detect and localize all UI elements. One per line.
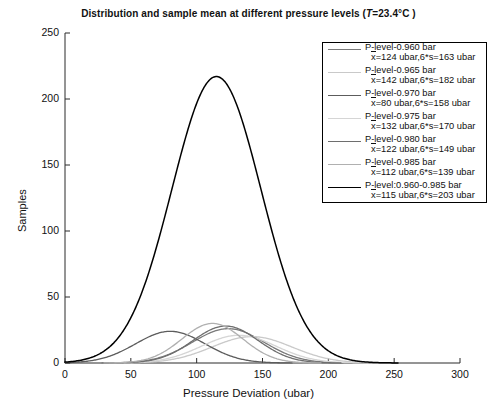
legend-entry[interactable]: P-level-0.970 barx=80 ubar,6*s=158 ubar xyxy=(323,89,486,112)
legend-entry-stats: x=115 ubar,6*s=203 ubar xyxy=(371,190,475,200)
legend-entry-stats: x=122 ubar,6*s=149 ubar xyxy=(371,144,475,154)
mean-symbol: x xyxy=(371,190,376,200)
y-tick-label: 50 xyxy=(19,290,59,302)
legend-box: P-level-0.960 barx=124 ubar,6*s=163 ubar… xyxy=(322,42,487,203)
distribution-curve xyxy=(102,329,354,363)
x-tick-label: 150 xyxy=(243,368,283,380)
legend-color-swatch xyxy=(328,164,361,165)
legend-color-swatch xyxy=(328,95,361,96)
legend-entry[interactable]: P-level-0.965 barx=142 ubar,6*s=182 ubar xyxy=(323,66,486,89)
x-tick-label: 0 xyxy=(45,368,85,380)
y-tick-label: 200 xyxy=(19,92,59,104)
legend-entry[interactable]: P-level-0.980 barx=122 ubar,6*s=149 ubar xyxy=(323,135,486,158)
legend-color-swatch xyxy=(328,118,361,119)
legend-entry-stats: x=142 ubar,6*s=182 ubar xyxy=(371,75,475,85)
mean-symbol: x xyxy=(371,144,376,154)
mean-symbol: x xyxy=(371,52,376,62)
x-tick-label: 300 xyxy=(440,368,480,380)
mean-symbol: x xyxy=(371,75,376,85)
y-axis-label: Samples xyxy=(16,189,28,232)
legend-entry-stats: x=124 ubar,6*s=163 ubar xyxy=(371,52,475,62)
legend-color-swatch xyxy=(328,72,361,73)
mean-symbol: x xyxy=(371,167,376,177)
x-axis-label: Pressure Deviation (ubar) xyxy=(0,387,497,399)
legend-entry-stats: x=132 ubar,6*s=170 ubar xyxy=(371,121,475,131)
y-tick-label: 150 xyxy=(19,158,59,170)
legend-entry[interactable]: P-level-0.975 barx=132 ubar,6*s=170 ubar xyxy=(323,112,486,135)
x-tick-label: 200 xyxy=(308,368,348,380)
legend-entry-stats: x=80 ubar,6*s=158 ubar xyxy=(371,98,470,108)
legend-color-swatch xyxy=(328,141,361,142)
legend-entry[interactable]: P-level-0.960 barx=124 ubar,6*s=163 ubar xyxy=(323,43,486,66)
legend-entry-stats: x=112 ubar,6*s=139 ubar xyxy=(371,167,475,177)
mean-symbol: x xyxy=(371,98,376,108)
y-tick-label: 250 xyxy=(19,26,59,38)
legend-entry[interactable]: P-level-0.985 barx=112 ubar,6*s=139 ubar xyxy=(323,158,486,181)
y-tick-label: 0 xyxy=(19,356,59,368)
chart-figure: Distribution and sample mean at differen… xyxy=(0,0,497,418)
mean-symbol: x xyxy=(371,121,376,131)
legend-entry-title: P-level:0.960-0.985 bar xyxy=(365,180,462,190)
x-tick-label: 50 xyxy=(111,368,151,380)
legend-entry[interactable]: P-level:0.960-0.985 barx=115 ubar,6*s=20… xyxy=(323,181,486,204)
legend-color-swatch xyxy=(328,187,361,188)
legend-color-swatch xyxy=(328,49,361,50)
x-tick-label: 100 xyxy=(177,368,217,380)
x-tick-label: 250 xyxy=(374,368,414,380)
